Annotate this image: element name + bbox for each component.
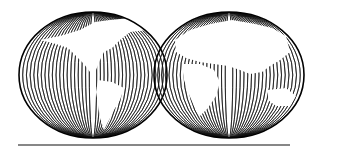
eastern-hemisphere [154,12,304,138]
western-hemisphere [19,12,167,138]
world-map-figure [0,0,340,148]
